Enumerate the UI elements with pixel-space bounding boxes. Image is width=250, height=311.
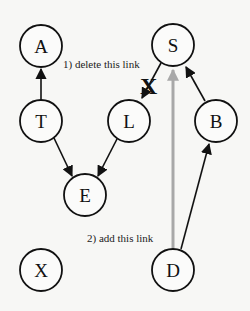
node-b: B	[195, 100, 237, 142]
svg-text:A: A	[34, 36, 48, 57]
svg-text:S: S	[168, 35, 179, 56]
edge-t-to-e	[54, 138, 72, 176]
delete-link-label: 1) delete this link	[63, 58, 140, 71]
svg-text:L: L	[123, 111, 135, 132]
svg-text:T: T	[35, 111, 47, 132]
edge-d-to-b	[181, 144, 209, 249]
svg-text:D: D	[166, 260, 180, 281]
graph-diagram: 1) delete this link X 2) add this link A…	[0, 0, 250, 311]
edge-l-to-e	[98, 139, 117, 176]
edge-b-to-s	[186, 67, 205, 101]
node-l: L	[108, 100, 150, 142]
node-a: A	[20, 25, 62, 67]
node-e: E	[64, 174, 106, 216]
node-t: T	[20, 100, 62, 142]
node-x: X	[20, 249, 62, 291]
svg-text:E: E	[79, 185, 91, 206]
delete-x-mark: X	[140, 73, 158, 99]
add-link-label: 2) add this link	[87, 232, 154, 245]
node-d: D	[152, 249, 194, 291]
svg-text:B: B	[210, 111, 223, 132]
node-s: S	[152, 24, 194, 66]
svg-text:X: X	[34, 260, 48, 281]
